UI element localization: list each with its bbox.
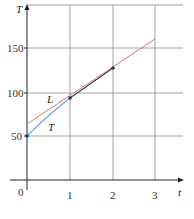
- data-point-2: [111, 66, 115, 70]
- arrow-right-icon: [178, 178, 184, 183]
- secant-segment: [70, 68, 113, 98]
- x-axis-label: t: [178, 186, 182, 198]
- origin-label: 0: [18, 186, 24, 198]
- y-axis-label: T: [16, 3, 23, 15]
- y-axis: [25, 4, 30, 190]
- x-axis: [10, 178, 184, 183]
- y-tick-150: 150: [7, 42, 24, 54]
- y-tick-100: 100: [7, 87, 24, 99]
- tangent-line-L: [27, 39, 155, 124]
- x-tick-1: 1: [67, 189, 73, 201]
- x-tick-3: 3: [152, 189, 158, 201]
- label-T: T: [48, 121, 55, 133]
- y-tick-50: 50: [11, 130, 23, 142]
- data-point-0: [25, 134, 29, 138]
- label-L: L: [46, 93, 53, 105]
- data-point-1: [68, 96, 72, 100]
- chart: 150 100 50 0 1 2 3 t T L T: [0, 0, 194, 219]
- x-tick-2: 2: [110, 189, 116, 201]
